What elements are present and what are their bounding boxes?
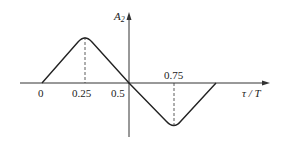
tick-label-0.25: 0.25: [72, 87, 92, 99]
tick-label-0.5: 0.5: [111, 87, 125, 99]
x-axis-label: τ / T: [242, 87, 261, 99]
tick-label-0: 0: [38, 87, 44, 99]
chart: 0 0.25 0.5 0.75 A2 τ / T: [0, 0, 283, 145]
y-axis-arrow-icon: [127, 12, 132, 20]
tick-label-0.75: 0.75: [164, 69, 184, 81]
x-axis-arrow-icon: [262, 81, 270, 86]
y-axis-label: A2: [113, 10, 125, 24]
